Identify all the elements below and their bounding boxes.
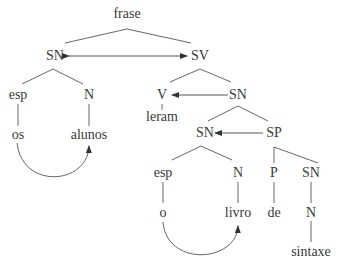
tree-edges bbox=[0, 0, 337, 265]
word-alunos: alunos bbox=[71, 128, 108, 142]
word-sintaxe: sintaxe bbox=[291, 245, 331, 259]
word-de: de bbox=[267, 206, 280, 220]
word-leram: leram bbox=[146, 110, 178, 124]
word-o: o bbox=[160, 206, 167, 220]
node-n-subject: N bbox=[84, 88, 94, 102]
node-sn-inner: SN bbox=[196, 126, 214, 140]
node-sv: SV bbox=[191, 49, 209, 63]
node-sp: SP bbox=[266, 126, 282, 140]
node-n-object: N bbox=[233, 166, 243, 180]
node-sn-subject: SN bbox=[46, 49, 64, 63]
node-sn-sp: SN bbox=[302, 166, 320, 180]
node-esp-subject: esp bbox=[9, 88, 28, 102]
word-os: os bbox=[12, 128, 24, 142]
node-v: V bbox=[157, 88, 167, 102]
word-livro: livro bbox=[225, 206, 251, 220]
node-frase: frase bbox=[113, 7, 140, 21]
node-n-sp: N bbox=[306, 206, 316, 220]
syntax-tree-diagram: frase SN SV esp N os alunos V leram SN S… bbox=[0, 0, 337, 265]
node-esp-object: esp bbox=[154, 166, 173, 180]
node-sn-object: SN bbox=[229, 88, 247, 102]
node-p: P bbox=[270, 166, 278, 180]
